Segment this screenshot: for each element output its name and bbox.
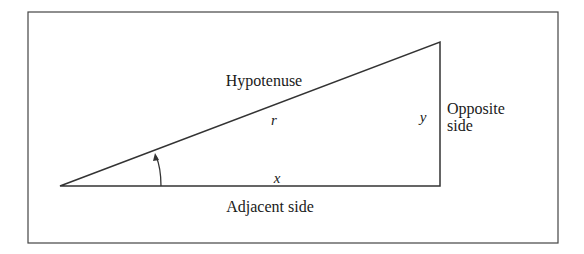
r-label: r <box>271 112 277 128</box>
arrowhead-icon <box>153 153 159 161</box>
y-label: y <box>418 109 427 125</box>
angle-arc <box>156 156 161 186</box>
right-triangle <box>60 42 440 186</box>
x-label: x <box>273 170 281 186</box>
opposite-label-line2: side <box>447 117 473 134</box>
adjacent-label: Adjacent side <box>226 198 314 216</box>
opposite-label-line1: Opposite <box>447 100 505 118</box>
triangle-diagram: Hypotenuse r y Opposite side x Adjacent … <box>0 0 584 254</box>
hypotenuse-label: Hypotenuse <box>226 72 302 90</box>
